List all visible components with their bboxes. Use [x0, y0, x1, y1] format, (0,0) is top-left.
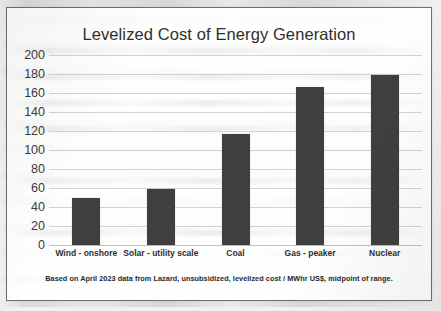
background-bleed-line — [0, 0, 441, 7]
gridline-0 — [49, 245, 422, 246]
y-axis-tick-0: 0 — [11, 239, 45, 252]
background-bleed-line — [0, 300, 441, 307]
bar-nuclear[interactable] — [371, 75, 399, 245]
x-axis-label-wind-onshore: Wind - onshore — [55, 248, 117, 258]
bar-series — [49, 55, 422, 245]
x-axis-label-solar-utility-scale: Solar - utility scale — [123, 248, 198, 258]
y-axis-tick-40: 40 — [11, 201, 45, 214]
chart-footnote: Based on April 2023 data from Lazard, un… — [7, 274, 431, 283]
bar-solar-utility-scale[interactable] — [147, 189, 175, 245]
y-axis-tick-160: 160 — [11, 87, 45, 100]
card-bleed-line — [7, 48, 431, 54]
y-axis-tick-200: 200 — [11, 49, 45, 62]
y-axis-tick-60: 60 — [11, 182, 45, 195]
y-axis-tick-100: 100 — [11, 144, 45, 157]
x-axis-label-gas-peaker: Gas - peaker — [285, 248, 336, 258]
y-axis-tick-140: 140 — [11, 106, 45, 119]
chart-title: Levelized Cost of Energy Generation — [7, 25, 431, 44]
x-axis-label-nuclear: Nuclear — [369, 248, 400, 258]
y-axis-tick-80: 80 — [11, 163, 45, 176]
bar-wind-onshore[interactable] — [72, 198, 100, 246]
photographed-page: Levelized Cost of Energy Generation 2001… — [0, 0, 441, 311]
x-axis-label-coal: Coal — [226, 248, 244, 258]
x-axis-labels: Wind - onshoreSolar - utility scaleCoalG… — [49, 248, 422, 264]
y-axis-tick-20: 20 — [11, 220, 45, 233]
y-axis-tick-120: 120 — [11, 125, 45, 138]
bar-gas-peaker[interactable] — [296, 87, 324, 245]
chart-card: Levelized Cost of Energy Generation 2001… — [6, 7, 432, 301]
y-axis: 200180160140120100806040200 — [7, 55, 45, 245]
bar-coal[interactable] — [222, 134, 250, 245]
y-axis-tick-180: 180 — [11, 68, 45, 81]
